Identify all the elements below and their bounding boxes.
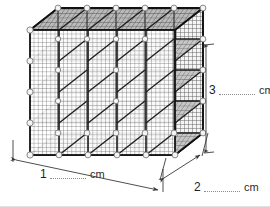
- height-unit: cm: [259, 84, 270, 96]
- dimension-label-length: 1cm: [40, 168, 105, 180]
- length-unit: cm: [90, 168, 105, 180]
- length-blank[interactable]: [50, 169, 86, 179]
- shelf-body: [27, 5, 206, 158]
- depth-value: 2: [194, 180, 201, 194]
- dimension-label-depth: 2cm: [194, 181, 259, 193]
- height-value: 3: [209, 83, 216, 97]
- depth-blank[interactable]: [204, 182, 240, 192]
- depth-unit: cm: [244, 181, 259, 193]
- height-blank[interactable]: [219, 85, 255, 95]
- length-value: 1: [40, 167, 47, 181]
- dimension-height: [204, 44, 214, 153]
- dimension-label-height: 3cm: [209, 84, 270, 96]
- figure-root: 3cm 1cm 2cm: [0, 0, 270, 206]
